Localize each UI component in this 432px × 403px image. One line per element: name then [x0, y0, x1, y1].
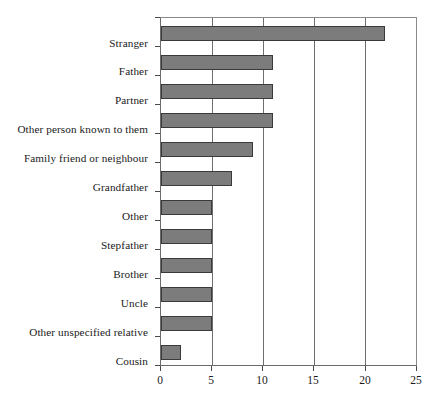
- y-axis-label-11: Cousin: [116, 355, 148, 367]
- bar-father: [161, 55, 273, 70]
- y-axis-label-9: Uncle: [121, 297, 148, 309]
- y-axis-label-4: Family friend or neighbour: [24, 152, 148, 164]
- bar-brother: [161, 258, 212, 273]
- x-axis-tick-label-1: 5: [196, 374, 226, 387]
- x-axis-tick-20: [365, 366, 366, 371]
- x-axis-tick-label-4: 20: [350, 374, 380, 387]
- y-axis-label-3: Other person known to them: [17, 123, 148, 135]
- bar-cousin: [161, 345, 181, 360]
- bar-other-person-known-to-them: [161, 113, 273, 128]
- y-axis-label-6: Other: [122, 210, 148, 222]
- y-axis-label-8: Brother: [113, 268, 148, 280]
- y-axis-label-0: Stranger: [109, 37, 148, 49]
- y-axis-label-1: Father: [119, 65, 148, 77]
- y-axis-label-2: Partner: [115, 94, 148, 106]
- bar-grandfather: [161, 171, 232, 186]
- y-axis-category-labels: Stranger Father Partner Other person kno…: [0, 17, 154, 366]
- y-axis-label-5: Grandfather: [93, 181, 148, 193]
- bar-partner: [161, 84, 273, 99]
- bar-other: [161, 200, 212, 215]
- x-axis-tick-10: [262, 366, 263, 371]
- y-axis-label-10: Other unspecified relative: [29, 326, 148, 338]
- x-axis-tick-label-0: 0: [145, 374, 175, 387]
- y-axis-label-7: Stepfather: [101, 239, 148, 251]
- gridline-5: [212, 18, 213, 365]
- gridline-20: [365, 18, 366, 365]
- bar-chart: Stranger Father Partner Other person kno…: [0, 0, 432, 403]
- x-axis-tick-label-5: 25: [401, 374, 431, 387]
- x-axis-tick-0: [160, 366, 161, 371]
- gridline-10: [263, 18, 264, 365]
- bar-stepfather: [161, 229, 212, 244]
- bar-other-unspecified-relative: [161, 316, 212, 331]
- gridline-15: [314, 18, 315, 365]
- x-axis-tick-label-2: 10: [247, 374, 277, 387]
- x-axis-tick-5: [211, 366, 212, 371]
- x-axis-tick-15: [313, 366, 314, 371]
- x-axis-tick-25: [416, 366, 417, 371]
- bar-uncle: [161, 287, 212, 302]
- plot-area: [160, 17, 417, 366]
- bar-family-friend-or-neighbour: [161, 142, 253, 157]
- bar-stranger: [161, 26, 385, 41]
- x-axis-tick-label-3: 15: [298, 374, 328, 387]
